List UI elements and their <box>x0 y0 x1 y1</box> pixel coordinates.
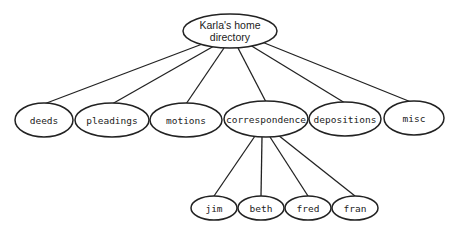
subfolder-label: beth <box>250 203 273 214</box>
edge-root-to-pleadings <box>112 46 214 104</box>
edge-root-to-motions <box>186 48 224 104</box>
root-label-line2: directory <box>210 31 251 43</box>
folder-node-motions: motions <box>150 103 222 137</box>
edge-root-to-correspondence <box>238 48 266 102</box>
folder-label: pleadings <box>86 115 137 126</box>
folder-node-misc: misc <box>384 101 444 135</box>
edge-correspondence-to-beth <box>261 137 262 196</box>
folder-node-pleadings: pleadings <box>75 103 149 137</box>
subfolder-node-jim: jim <box>191 196 237 220</box>
folder-node-correspondence: correspondence <box>224 101 308 137</box>
subfolder-node-fred: fred <box>285 196 331 220</box>
subfolder-nodes: jim beth fred fran <box>191 196 378 220</box>
root-node-karlas-home-directory: Karla's home directory <box>183 14 277 48</box>
folder-label: misc <box>403 113 426 124</box>
edge-correspondence-to-jim <box>214 136 255 196</box>
edge-correspondence-to-fran <box>278 135 355 196</box>
directory-tree-diagram: Karla's home directory deeds pleadings m… <box>0 0 455 234</box>
edge-root-to-misc <box>262 42 411 102</box>
folder-label: motions <box>166 115 206 126</box>
folder-label: deeds <box>30 115 59 126</box>
subfolder-node-beth: beth <box>238 196 284 220</box>
edge-root-to-depositions <box>250 45 345 103</box>
subfolder-label: fran <box>344 203 367 214</box>
folder-nodes: deeds pleadings motions correspondence d… <box>15 101 444 137</box>
edge-correspondence-to-fred <box>270 137 308 196</box>
folder-node-deeds: deeds <box>15 103 73 137</box>
subfolder-label: fred <box>297 203 320 214</box>
folder-node-depositions: depositions <box>309 102 381 136</box>
folder-label: correspondence <box>226 114 306 125</box>
subfolder-node-fran: fran <box>332 196 378 220</box>
root-label-line1: Karla's home <box>200 19 261 31</box>
folder-label: depositions <box>314 114 377 125</box>
edge-root-to-deeds <box>44 43 205 104</box>
subfolder-label: jim <box>205 203 222 214</box>
